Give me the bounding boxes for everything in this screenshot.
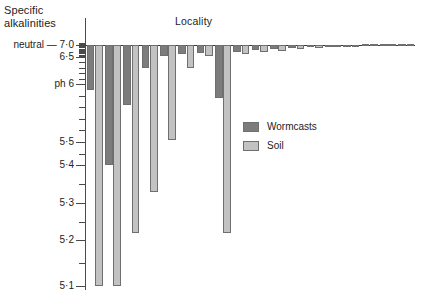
- y-axis-label-5-2: 5·2: [60, 235, 74, 245]
- y-axis-label-7-0: neutral — 7·0: [13, 40, 74, 50]
- bar-wormcasts-2: [105, 45, 113, 165]
- bar-soil-1: [95, 45, 103, 286]
- bar-soil-5: [168, 45, 176, 140]
- y-axis-label-ph-6: ph 6: [55, 79, 74, 89]
- legend-swatch-soil-icon: [243, 141, 259, 151]
- bar-wormcasts-14: [325, 45, 333, 47]
- legend-item-wormcasts: Wormcasts: [243, 122, 317, 132]
- y-axis-label-5-3: 5·3: [60, 198, 74, 208]
- bar-soil-12: [297, 45, 305, 49]
- y-tick-5-5: [76, 142, 85, 143]
- y-minor-tick: [79, 96, 85, 97]
- bar-soil-6: [187, 45, 195, 68]
- bar-wormcasts-5: [160, 45, 168, 56]
- legend-label-wormcasts: Wormcasts: [267, 122, 317, 132]
- y-minor-tick: [79, 263, 85, 264]
- y-minor-tick: [79, 119, 85, 120]
- bar-wormcasts-4: [142, 45, 150, 68]
- bar-wormcasts-10: [252, 45, 260, 50]
- y-minor-tick: [79, 62, 85, 63]
- y-axis-labels: neutral — 7·06·5ph 65·55·45·35·25·1: [0, 0, 74, 306]
- bar-wormcasts-12: [288, 45, 296, 48]
- legend-label-soil: Soil: [267, 141, 284, 151]
- y-tick-6-5: [76, 57, 85, 58]
- y-minor-tick: [79, 73, 85, 74]
- bar-wormcasts-9: [233, 45, 241, 52]
- bar-soil-11: [278, 45, 286, 51]
- legend-swatch-wormcasts-icon: [243, 122, 259, 132]
- bar-wormcasts-6: [178, 45, 186, 54]
- y-minor-tick: [79, 56, 85, 57]
- bar-soil-17: [388, 44, 396, 46]
- y-minor-tick: [79, 222, 85, 223]
- y-minor-tick: [79, 107, 85, 108]
- y-tick-5-4: [76, 165, 85, 166]
- bar-soil-3: [132, 45, 140, 233]
- bar-wormcasts-16: [362, 44, 370, 46]
- bar-wormcasts-17: [380, 44, 388, 46]
- y-axis-label-5-1: 5·1: [60, 281, 74, 291]
- y-minor-tick: [79, 154, 85, 155]
- bar-wormcasts-18: [398, 44, 406, 46]
- y-minor-tick: [79, 130, 85, 131]
- bar-wormcasts-15: [343, 45, 351, 47]
- y-minor-tick: [79, 184, 85, 185]
- y-axis-label-5-5: 5·5: [60, 137, 74, 147]
- bar-soil-9: [242, 45, 250, 54]
- y-tick-ph-6: [76, 84, 85, 85]
- bar-wormcasts-13: [307, 45, 315, 47]
- y-tick-5-2: [76, 240, 85, 241]
- bar-wormcasts-7: [197, 45, 205, 53]
- bar-soil-18: [407, 44, 415, 46]
- bar-soil-10: [260, 45, 268, 52]
- y-minor-tick: [79, 79, 85, 80]
- y-tick-5-1: [76, 286, 85, 287]
- y-axis-label-6-5: 6·5: [60, 52, 74, 62]
- bar-soil-4: [150, 45, 158, 192]
- bar-soil-13: [315, 45, 323, 48]
- bar-wormcasts-1: [87, 45, 95, 90]
- y-tick-5-3: [76, 203, 85, 204]
- bar-wormcasts-8: [215, 45, 223, 98]
- bar-soil-15: [352, 45, 360, 47]
- chart-legend: Wormcasts Soil: [243, 122, 317, 160]
- bar-soil-7: [205, 45, 213, 56]
- legend-item-soil: Soil: [243, 141, 317, 151]
- y-axis-label-5-4: 5·4: [60, 160, 74, 170]
- bar-wormcasts-11: [270, 45, 278, 49]
- bar-wormcasts-3: [123, 45, 131, 105]
- bar-soil-16: [370, 44, 378, 46]
- bar-soil-2: [113, 45, 121, 286]
- bar-soil-8: [223, 45, 231, 233]
- bar-soil-14: [333, 45, 341, 47]
- chart-figure: Specific alkalinities neutral — 7·06·5ph…: [0, 0, 425, 306]
- y-minor-tick: [79, 68, 85, 69]
